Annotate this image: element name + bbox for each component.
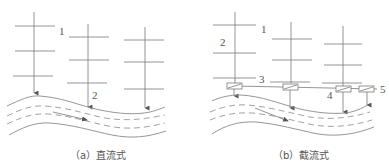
sewer-branch-a3 bbox=[124, 27, 164, 108]
caption-b: （b）截流式 bbox=[273, 149, 329, 161]
overflow-well-3 bbox=[336, 86, 351, 92]
river-b bbox=[210, 95, 374, 135]
drainage-system-diagram: 1 2 （a）直流式 bbox=[0, 0, 389, 167]
river-a bbox=[7, 96, 166, 137]
sewer-branch-b2 bbox=[270, 22, 312, 83]
label-5: 5 bbox=[380, 83, 386, 95]
label-2: 2 bbox=[92, 89, 98, 101]
sewer-branch-a1 bbox=[13, 12, 55, 93]
panel-a-direct-flow: 1 2 （a）直流式 bbox=[7, 12, 166, 161]
label-4: 4 bbox=[327, 89, 333, 101]
sewer-branch-b3 bbox=[322, 26, 362, 86]
label-2: 2 bbox=[220, 36, 226, 48]
overflow-well-2 bbox=[283, 84, 298, 90]
overflow-well-1 bbox=[227, 83, 242, 89]
label-1: 1 bbox=[261, 23, 267, 35]
label-1: 1 bbox=[59, 25, 65, 37]
overflow-well-4 bbox=[359, 86, 374, 92]
sewer-branch-a2 bbox=[67, 24, 109, 107]
intercepting-sewer-main bbox=[235, 86, 377, 89]
caption-a: （a）直流式 bbox=[70, 149, 126, 161]
panel-b-intercepting: 1 2 3 4 5 （b）截流式 bbox=[210, 12, 386, 161]
label-3: 3 bbox=[259, 73, 265, 85]
